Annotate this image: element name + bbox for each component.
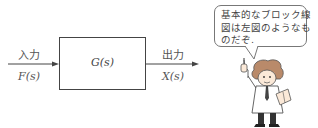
output-signal: X(s)	[153, 70, 193, 83]
speech-bubble: 基本的なブロック線 図は左図のようなも のだぞ.	[214, 5, 307, 47]
professor-illustration-icon	[236, 58, 306, 128]
input-signal: F(s)	[9, 70, 49, 83]
bubble-text-line: 基本的なブロック線	[221, 9, 302, 22]
output-label: 出力	[153, 46, 193, 62]
transfer-function-label: G(s)	[59, 56, 146, 69]
input-label: 入力	[9, 46, 49, 62]
bubble-text-line: 図は左図のようなも	[221, 22, 302, 35]
